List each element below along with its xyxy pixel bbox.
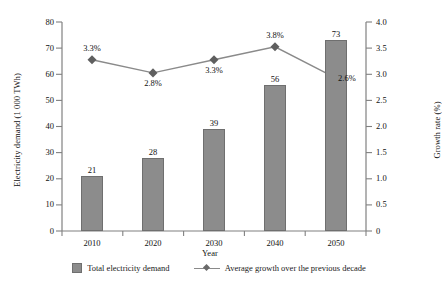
left-tick-50: 50: [28, 96, 54, 105]
legend-item-line: Average growth over the previous decade: [194, 263, 366, 273]
x-tick-2050: 2050: [306, 238, 366, 248]
x-tick-2020: 2020: [123, 238, 183, 248]
right-tick-20: 2.0: [376, 122, 406, 131]
bar-label-2050: 73: [316, 29, 356, 39]
left-tick-40: 40: [28, 122, 54, 131]
left-tick-70: 70: [28, 44, 54, 53]
x-tick-2030: 2030: [184, 238, 244, 248]
x-tick-2010: 2010: [62, 238, 122, 248]
left-axis-ticks: [56, 22, 62, 231]
bar-2030: [203, 129, 225, 231]
bar-2010: [81, 176, 103, 231]
left-tick-10: 10: [28, 200, 54, 209]
right-tick-30: 3.0: [376, 70, 406, 79]
point-label-2030: 3.3%: [194, 65, 234, 75]
left-tick-80: 80: [28, 18, 54, 27]
x-axis-ticks: [62, 231, 366, 236]
point-label-2040: 3.8%: [255, 30, 295, 40]
right-axis-title: Growth rate (%): [432, 45, 442, 215]
right-tick-15: 1.5: [376, 148, 406, 157]
right-tick-05: 0.5: [376, 200, 406, 209]
bar-2050: [325, 40, 347, 231]
left-axis-title: Electricity demand (1 000 TWh): [12, 45, 22, 215]
left-tick-30: 30: [28, 148, 54, 157]
point-label-2020: 2.8%: [133, 78, 173, 88]
right-tick-35: 3.5: [376, 44, 406, 53]
left-tick-60: 60: [28, 70, 54, 79]
x-tick-2040: 2040: [245, 238, 305, 248]
legend-bar-label: Total electricity demand: [87, 263, 169, 273]
right-tick-25: 2.5: [376, 96, 406, 105]
bar-label-2040: 56: [255, 74, 295, 84]
x-axis-title: Year: [60, 248, 360, 258]
bar-2020: [142, 158, 164, 231]
right-tick-40: 4.0: [376, 18, 406, 27]
bar-2040: [264, 85, 286, 231]
left-tick-20: 20: [28, 174, 54, 183]
right-tick-0: 0: [376, 227, 406, 236]
legend-bar-swatch-icon: [72, 263, 82, 273]
chart-legend: Total electricity demand Average growth …: [0, 263, 438, 273]
legend-item-bar: Total electricity demand: [72, 263, 169, 273]
left-tick-0: 0: [28, 227, 54, 236]
point-label-2050: 2.6%: [338, 73, 378, 83]
right-axis-ticks: [366, 22, 372, 231]
growth-rate-markers: [87, 42, 340, 82]
legend-line-marker-icon: [194, 264, 220, 272]
right-tick-10: 1.0: [376, 174, 406, 183]
point-label-2010: 3.3%: [72, 43, 112, 53]
bar-label-2030: 39: [194, 118, 234, 128]
bar-label-2010: 21: [72, 165, 112, 175]
legend-line-label: Average growth over the previous decade: [225, 263, 366, 273]
bar-label-2020: 28: [133, 147, 173, 157]
